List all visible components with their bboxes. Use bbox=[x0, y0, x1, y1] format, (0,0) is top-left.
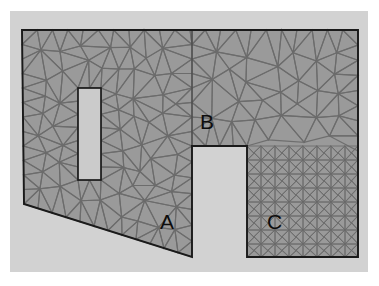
interior-hole bbox=[78, 88, 101, 180]
mesh-figure: A B C bbox=[0, 0, 379, 286]
boundary-notch bbox=[192, 146, 247, 257]
region-label-a: A bbox=[160, 211, 174, 232]
region-label-c: C bbox=[267, 211, 282, 232]
mesh-canvas bbox=[0, 0, 379, 286]
region-label-b: B bbox=[200, 111, 214, 132]
